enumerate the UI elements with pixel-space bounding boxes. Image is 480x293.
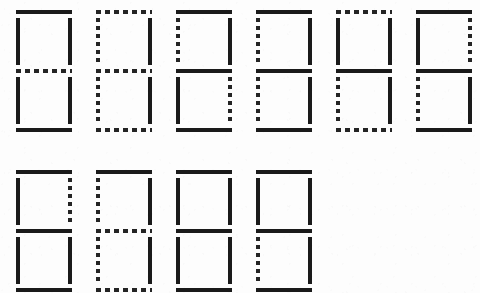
segment-middle-on bbox=[256, 69, 312, 73]
segment-bottom-on bbox=[16, 288, 72, 292]
segment-bottom-right-on bbox=[68, 77, 72, 124]
segment-bottom-left-off bbox=[256, 237, 260, 284]
segment-top-right-on bbox=[308, 18, 312, 65]
segment-top-off bbox=[336, 10, 392, 14]
seven-segment-digit-1 bbox=[96, 10, 152, 132]
segment-bottom-left-on bbox=[16, 237, 20, 284]
seven-segment-digit-8 bbox=[176, 170, 232, 292]
segment-middle-on bbox=[16, 229, 72, 233]
segment-bottom-off bbox=[96, 128, 152, 132]
seven-segment-digit-sheet bbox=[0, 0, 480, 293]
segment-top-left-on bbox=[176, 178, 180, 225]
segment-top-off bbox=[96, 10, 152, 14]
segment-bottom-left-on bbox=[176, 77, 180, 124]
segment-bottom-on bbox=[256, 128, 312, 132]
seven-segment-digit-6 bbox=[16, 170, 72, 292]
segment-top-left-on bbox=[16, 18, 20, 65]
seven-segment-digit-0 bbox=[16, 10, 72, 132]
segment-top-right-off bbox=[68, 178, 72, 225]
segment-top-left-on bbox=[16, 178, 20, 225]
segment-top-on bbox=[256, 10, 312, 14]
segment-bottom-right-on bbox=[308, 237, 312, 284]
seven-segment-digit-5 bbox=[416, 10, 472, 132]
seven-segment-digit-7 bbox=[96, 170, 152, 292]
segment-middle-on bbox=[176, 69, 232, 73]
segment-bottom-right-on bbox=[148, 237, 152, 284]
segment-top-left-off bbox=[176, 18, 180, 65]
segment-top-right-on bbox=[228, 18, 232, 65]
segment-middle-off bbox=[96, 69, 152, 73]
segment-bottom-on bbox=[256, 288, 312, 292]
segment-top-on bbox=[16, 10, 72, 14]
segment-bottom-on bbox=[176, 288, 232, 292]
segment-top-on bbox=[176, 10, 232, 14]
segment-middle-off bbox=[16, 69, 72, 73]
segment-top-left-off bbox=[96, 18, 100, 65]
segment-bottom-off bbox=[336, 128, 392, 132]
segment-bottom-left-off bbox=[416, 77, 420, 124]
segment-middle-on bbox=[336, 69, 392, 73]
segment-top-right-on bbox=[68, 18, 72, 65]
segment-top-on bbox=[256, 170, 312, 174]
segment-middle-off bbox=[96, 229, 152, 233]
segment-top-right-on bbox=[388, 18, 392, 65]
segment-bottom-left-off bbox=[96, 237, 100, 284]
segment-top-on bbox=[416, 10, 472, 14]
segment-bottom-right-on bbox=[388, 77, 392, 124]
segment-top-on bbox=[16, 170, 72, 174]
segment-top-left-on bbox=[256, 178, 260, 225]
segment-top-left-on bbox=[336, 18, 340, 65]
segment-middle-on bbox=[176, 229, 232, 233]
segment-bottom-off bbox=[96, 288, 152, 292]
segment-bottom-right-on bbox=[468, 77, 472, 124]
segment-top-right-off bbox=[468, 18, 472, 65]
segment-top-right-on bbox=[148, 178, 152, 225]
segment-bottom-right-on bbox=[148, 77, 152, 124]
segment-bottom-right-off bbox=[228, 77, 232, 124]
segment-bottom-right-on bbox=[228, 237, 232, 284]
segment-top-left-off bbox=[256, 18, 260, 65]
segment-top-right-on bbox=[228, 178, 232, 225]
seven-segment-digit-9 bbox=[256, 170, 312, 292]
seven-segment-digit-2 bbox=[176, 10, 232, 132]
segment-top-left-off bbox=[96, 178, 100, 225]
segment-bottom-left-on bbox=[176, 237, 180, 284]
seven-segment-digit-3 bbox=[256, 10, 312, 132]
segment-bottom-left-off bbox=[256, 77, 260, 124]
segment-middle-on bbox=[256, 229, 312, 233]
segment-top-on bbox=[96, 170, 152, 174]
segment-bottom-left-off bbox=[96, 77, 100, 124]
segment-bottom-on bbox=[416, 128, 472, 132]
segment-top-left-on bbox=[416, 18, 420, 65]
segment-top-right-on bbox=[148, 18, 152, 65]
segment-middle-on bbox=[416, 69, 472, 73]
segment-bottom-right-on bbox=[308, 77, 312, 124]
segment-bottom-left-on bbox=[16, 77, 20, 124]
segment-top-right-on bbox=[308, 178, 312, 225]
segment-bottom-left-off bbox=[336, 77, 340, 124]
segment-top-on bbox=[176, 170, 232, 174]
segment-bottom-on bbox=[16, 128, 72, 132]
segment-bottom-on bbox=[176, 128, 232, 132]
segment-bottom-right-on bbox=[68, 237, 72, 284]
seven-segment-digit-4 bbox=[336, 10, 392, 132]
